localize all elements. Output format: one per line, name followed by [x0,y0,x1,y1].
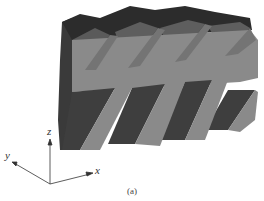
3d-block-render [0,0,264,201]
figure-caption: (a) [0,187,264,196]
figure: z x y (a) [0,0,264,201]
y-axis [14,163,50,184]
x-arrowhead [86,172,93,176]
y-arrowhead [12,162,17,166]
z-axis-label: z [47,126,51,137]
x-axis-label: x [95,165,100,176]
z-arrowhead [48,139,52,145]
y-axis-label: y [5,150,10,161]
x-axis [50,174,90,184]
